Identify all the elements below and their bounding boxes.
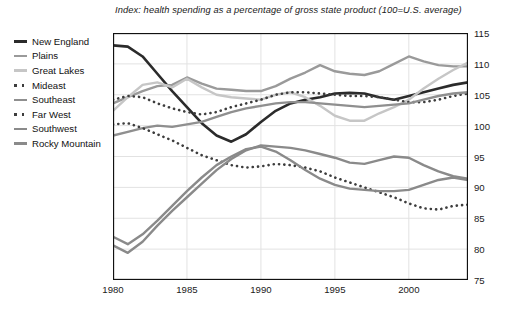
legend-swatch-icon — [14, 65, 27, 76]
legend-item-great-lakes: Great Lakes — [14, 63, 114, 78]
x-axis-tick-label: 2000 — [398, 284, 419, 295]
x-axis-tick-label: 1990 — [250, 284, 271, 295]
chart-legend: New EnglandPlainsGreat LakesMideastSouth… — [14, 34, 114, 151]
legend-item-label: Mideast — [32, 80, 66, 91]
legend-item-label: Southwest — [32, 123, 77, 134]
chart-title: Index: health spending as a percentage o… — [115, 5, 462, 15]
legend-item-rocky-mountain: Rocky Mountain — [14, 136, 114, 151]
plot-area — [113, 33, 468, 280]
y-axis-tick-label: 115 — [474, 28, 489, 39]
series-line-great-lakes — [113, 63, 468, 121]
legend-item-label: Far West — [32, 109, 71, 120]
plot-svg — [113, 33, 468, 280]
legend-item-southwest: Southwest — [14, 122, 114, 137]
legend-item-label: New England — [32, 36, 89, 47]
legend-item-label: Plains — [32, 50, 58, 61]
legend-swatch-icon — [14, 36, 27, 47]
y-axis-tick-label: 90 — [474, 182, 485, 193]
legend-item-label: Rocky Mountain — [32, 138, 101, 149]
legend-item-label: Great Lakes — [32, 65, 84, 76]
legend-item-label: Southeast — [32, 94, 75, 105]
y-axis-tick-label: 105 — [474, 89, 490, 100]
legend-swatch-icon — [14, 50, 27, 61]
y-axis-tick-label: 85 — [474, 213, 485, 224]
y-axis-tick-label: 110 — [474, 58, 489, 69]
legend-item-plains: Plains — [14, 49, 114, 64]
series-line-far-west — [113, 123, 468, 209]
legend-swatch-icon — [14, 109, 27, 120]
y-axis-tick-label: 100 — [474, 120, 490, 131]
legend-item-southeast: Southeast — [14, 92, 114, 107]
x-axis-tick-label: 1980 — [102, 284, 123, 295]
x-axis-tick-label: 1985 — [176, 284, 197, 295]
y-axis-tick-label: 75 — [474, 275, 485, 286]
series-line-southeast — [113, 92, 468, 135]
legend-swatch-icon — [14, 80, 27, 91]
legend-item-far-west: Far West — [14, 107, 114, 122]
legend-item-mideast: Mideast — [14, 78, 114, 93]
legend-item-new-england: New England — [14, 34, 114, 49]
legend-swatch-icon — [14, 138, 27, 149]
legend-swatch-icon — [14, 94, 27, 105]
y-axis-tick-label: 80 — [474, 244, 485, 255]
legend-swatch-icon — [14, 123, 27, 134]
chart-container: Index: health spending as a percentage o… — [0, 0, 515, 311]
y-axis-tick-label: 95 — [474, 151, 485, 162]
x-axis-tick-label: 1995 — [324, 284, 345, 295]
